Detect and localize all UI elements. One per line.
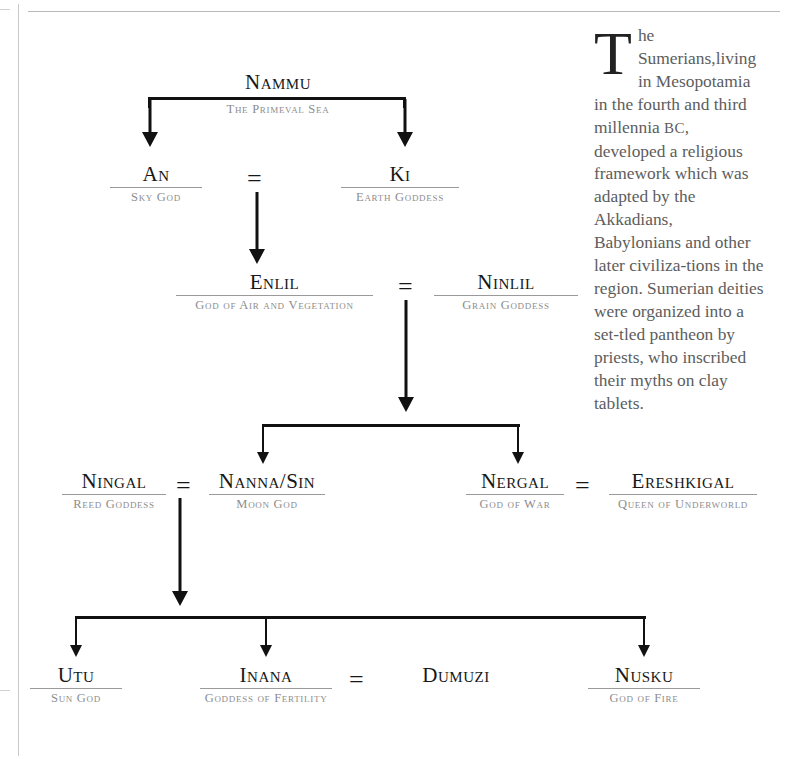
union-nergal-ereshkigal: = — [575, 473, 590, 499]
node-enlil: Enlil God of Air and Vegetation — [176, 271, 373, 312]
node-an-name: An — [110, 163, 202, 185]
node-utu: Utu Sun God — [30, 664, 122, 705]
node-nanna-sin-epithet: Moon God — [209, 498, 325, 511]
arrow-bus-to-nusku — [637, 618, 651, 658]
node-inana: Inana Goddess of Fertility — [200, 664, 332, 705]
node-nanna-sin-name: Nanna/Sin — [209, 470, 325, 492]
side-text-era: BC — [664, 120, 685, 136]
node-nanna-sin-rule — [209, 494, 325, 495]
node-enlil-epithet: God of Air and Vegetation — [176, 299, 373, 312]
drop-cap: T — [594, 30, 632, 76]
node-nergal: Nergal God of War — [466, 470, 564, 511]
node-ningal: Ningal Reed Goddess — [62, 470, 166, 511]
node-an-epithet: Sky God — [110, 191, 202, 204]
page-edge-tick-top — [0, 9, 10, 10]
node-ereshkigal: Ereshkigal Queen of Underworld — [609, 470, 757, 511]
node-ereshkigal-rule — [609, 494, 757, 495]
node-ereshkigal-epithet: Queen of Underworld — [609, 498, 757, 511]
node-utu-name: Utu — [30, 664, 122, 686]
node-nanna-sin: Nanna/Sin Moon God — [209, 470, 325, 511]
node-ki-name: Ki — [341, 163, 459, 185]
node-ningal-epithet: Reed Goddess — [62, 498, 166, 511]
arrow-bus-to-utu — [69, 618, 83, 658]
bus-enlil-children — [262, 424, 520, 427]
node-ereshkigal-name: Ereshkigal — [609, 470, 757, 492]
node-inana-epithet: Goddess of Fertility — [200, 692, 332, 705]
node-nammu-name: Nammu — [198, 71, 358, 93]
node-an-rule — [110, 187, 202, 188]
arrow-bus-to-nanna — [256, 426, 270, 464]
node-nergal-rule — [466, 494, 564, 495]
node-ningal-name: Ningal — [62, 470, 166, 492]
arrow-bus-to-nergal — [511, 426, 525, 464]
union-enlil-ninlil: = — [398, 274, 413, 300]
page-left-rule — [18, 4, 19, 756]
node-dumuzi: Dumuzi — [398, 664, 514, 686]
bus-nanna-children — [75, 616, 646, 619]
arrow-nammu-to-ki — [397, 99, 413, 147]
node-utu-rule — [30, 688, 122, 689]
side-text-line1: he Sumerians, — [638, 25, 716, 68]
node-ninlil-name: Ninlil — [434, 271, 578, 293]
node-nergal-epithet: God of War — [466, 498, 564, 511]
union-an-ki: = — [247, 166, 262, 192]
node-nammu: Nammu — [198, 71, 358, 93]
side-text-column: The Sumerians,living in Mesopotamia in t… — [594, 24, 764, 414]
node-ninlil: Ninlil Grain Goddess — [434, 271, 578, 312]
node-nergal-name: Nergal — [466, 470, 564, 492]
node-inana-rule — [200, 688, 332, 689]
arrow-bus-to-inana — [259, 618, 273, 658]
node-enlil-rule — [176, 295, 373, 296]
arrow-enlilninlil-to-bus — [398, 300, 414, 412]
node-nusku: Nusku God of Fire — [588, 664, 700, 705]
node-an: An Sky God — [110, 163, 202, 204]
node-inana-name: Inana — [200, 664, 332, 686]
node-ninlil-epithet: Grain Goddess — [434, 299, 578, 312]
arrow-anki-to-enlil — [249, 192, 265, 264]
side-text-body: The Sumerians,living in Mesopotamia in t… — [594, 24, 764, 414]
node-utu-epithet: Sun God — [30, 692, 122, 705]
node-nammu-epithet-text: The Primeval Sea — [198, 103, 358, 116]
bus-nammu — [148, 97, 406, 100]
node-nusku-epithet: God of Fire — [588, 692, 700, 705]
node-ki-epithet: Earth Goddess — [341, 191, 459, 204]
node-enlil-name: Enlil — [176, 271, 373, 293]
page-edge-tick-bottom — [0, 690, 10, 691]
union-inana-dumuzi: = — [349, 667, 364, 693]
arrow-nammu-to-an — [142, 99, 158, 147]
arrow-ningalnanna-to-bus — [172, 498, 188, 606]
node-ki-rule — [341, 187, 459, 188]
node-nammu-epithet: The Primeval Sea — [198, 103, 358, 116]
node-ningal-rule — [62, 494, 166, 495]
figure-page: Nammu The Primeval Sea An Sky God = Ki E… — [0, 0, 787, 759]
node-ninlil-rule — [434, 295, 578, 296]
node-ki: Ki Earth Goddess — [341, 163, 459, 204]
side-text-part-b: , developed a religious framework which … — [594, 117, 764, 413]
node-nusku-name: Nusku — [588, 664, 700, 686]
union-ningal-nanna: = — [176, 473, 191, 499]
node-dumuzi-name: Dumuzi — [398, 664, 514, 686]
node-nusku-rule — [588, 688, 700, 689]
page-top-rule — [28, 11, 780, 12]
